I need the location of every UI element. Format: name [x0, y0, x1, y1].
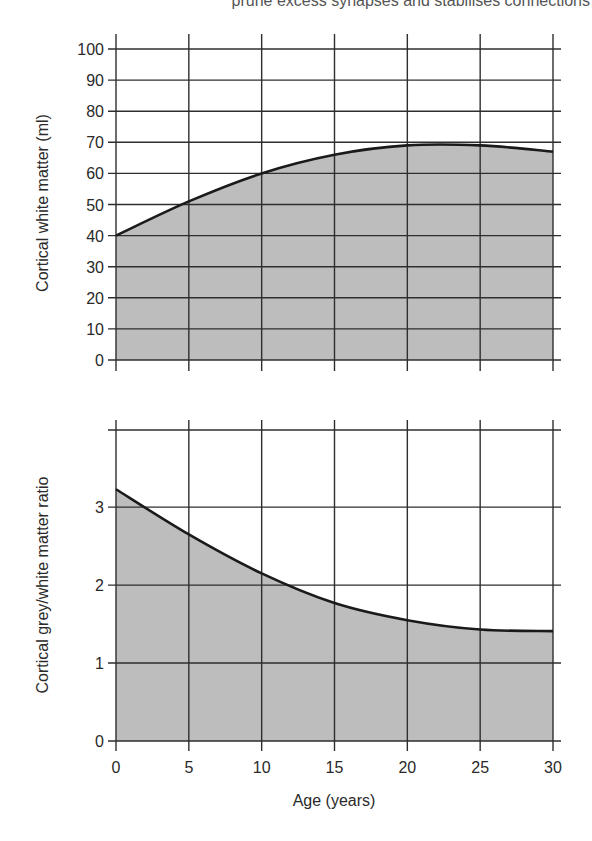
- x-tick-label: 0: [112, 759, 121, 776]
- y-tick-label: 90: [86, 72, 104, 89]
- cropped-caption: prune excess synapses and stabilises con…: [232, 0, 590, 9]
- y-tick-label: 50: [86, 197, 104, 214]
- y-tick-label: 30: [86, 259, 104, 276]
- y-tick-label: 60: [86, 165, 104, 182]
- x-tick-label: 20: [398, 759, 416, 776]
- y-tick-label: 0: [95, 733, 104, 750]
- y-tick-label: 40: [86, 228, 104, 245]
- y-tick-label: 20: [86, 290, 104, 307]
- age-x-axis-title: Age (years): [293, 792, 376, 809]
- chart-figure: prune excess synapses and stabilises con…: [0, 0, 592, 841]
- y-tick-label: 100: [77, 41, 104, 58]
- x-tick-label: 10: [253, 759, 271, 776]
- white-matter-y-axis-title: Cortical white matter (ml): [34, 114, 51, 292]
- y-tick-label: 10: [86, 321, 104, 338]
- ratio-y-axis-title: Cortical grey/white matter ratio: [34, 476, 51, 693]
- x-tick-label: 15: [326, 759, 344, 776]
- x-tick-label: 30: [544, 759, 562, 776]
- y-tick-label: 0: [95, 352, 104, 369]
- y-tick-label: 2: [95, 577, 104, 594]
- age-x-ticks: 051015202530: [112, 759, 562, 776]
- ratio-panel: 0123 051015202530 Cortical grey/white ma…: [34, 420, 562, 809]
- white-matter-y-ticks: 0102030405060708090100: [77, 41, 104, 369]
- y-tick-label: 3: [95, 499, 104, 516]
- white-matter-panel: 0102030405060708090100 Cortical white ma…: [34, 34, 561, 371]
- y-tick-label: 70: [86, 134, 104, 151]
- x-tick-label: 5: [184, 759, 193, 776]
- y-tick-label: 80: [86, 103, 104, 120]
- y-tick-label: 1: [95, 655, 104, 672]
- x-tick-label: 25: [471, 759, 489, 776]
- ratio-y-ticks: 0123: [95, 499, 104, 750]
